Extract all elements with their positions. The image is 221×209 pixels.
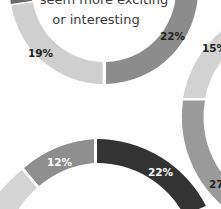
- right-label-27: 27: [209, 178, 221, 190]
- right-donut-slice-15: [183, 28, 221, 98]
- right-label-15: 15%: [202, 42, 221, 54]
- bottom-donut: 12% 22%: [0, 139, 206, 209]
- top-donut-slice-dark: [10, 0, 38, 4]
- top-label-19: 19%: [28, 47, 54, 59]
- bottom-label-22: 22%: [148, 166, 174, 178]
- top-label-22: 22%: [160, 30, 186, 42]
- bottom-label-12: 12%: [47, 156, 73, 168]
- donut-charts: seem more exciting or interesting 19% 22…: [0, 0, 221, 209]
- top-caption-line-2: or interesting: [52, 12, 139, 27]
- top-donut: seem more exciting or interesting 19% 22…: [10, 0, 198, 84]
- top-caption-line-1: seem more exciting: [40, 0, 169, 7]
